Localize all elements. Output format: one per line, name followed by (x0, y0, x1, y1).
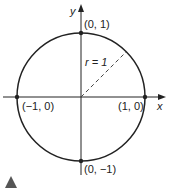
point-label-bottom: (0, −1) (84, 164, 116, 175)
x-axis-label: x (157, 101, 163, 112)
point-label-left: (−1, 0) (22, 101, 54, 112)
radius-label: r = 1 (85, 57, 107, 68)
point-right (143, 95, 147, 99)
point-top (79, 31, 83, 35)
point-left (15, 95, 19, 99)
point-label-top: (0, 1) (84, 19, 110, 30)
y-axis-label: y (70, 6, 76, 17)
y-axis-arrow-icon (78, 4, 84, 12)
point-bottom (79, 159, 83, 163)
triangle-marker-icon (5, 176, 17, 188)
point-label-right: (1, 0) (118, 101, 144, 112)
